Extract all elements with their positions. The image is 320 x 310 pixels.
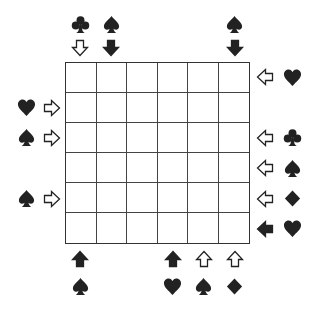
heart-icon — [17, 98, 36, 117]
arrow-left-white-icon — [256, 68, 274, 86]
arrow-down-black-icon — [226, 39, 244, 57]
heart-icon — [283, 68, 302, 87]
spade-icon — [102, 15, 121, 34]
clue-layer — [0, 0, 320, 310]
spade-icon — [194, 277, 213, 296]
spade-icon — [71, 277, 90, 296]
arrow-up-white-icon — [226, 250, 244, 268]
heart-icon — [283, 219, 302, 238]
arrow-right-white-icon — [43, 129, 61, 147]
diamond-icon — [225, 277, 244, 296]
arrow-left-white-icon — [256, 129, 274, 147]
arrow-up-black-icon — [71, 250, 89, 268]
arrow-up-black-icon — [164, 250, 182, 268]
arrow-right-white-icon — [43, 190, 61, 208]
arrow-right-white-icon — [43, 99, 61, 117]
spade-icon — [225, 15, 244, 34]
spade-icon — [17, 128, 36, 147]
club-icon — [71, 15, 90, 34]
spade-icon — [283, 159, 302, 178]
arrow-up-white-icon — [195, 250, 213, 268]
diamond-icon — [283, 189, 302, 208]
arrow-down-white-icon — [71, 39, 89, 57]
arrow-left-white-icon — [256, 190, 274, 208]
arrow-left-black-icon — [256, 220, 274, 238]
spade-icon — [17, 189, 36, 208]
arrow-left-white-icon — [256, 159, 274, 177]
heart-icon — [163, 277, 182, 296]
club-icon — [283, 128, 302, 147]
arrow-down-black-icon — [102, 39, 120, 57]
